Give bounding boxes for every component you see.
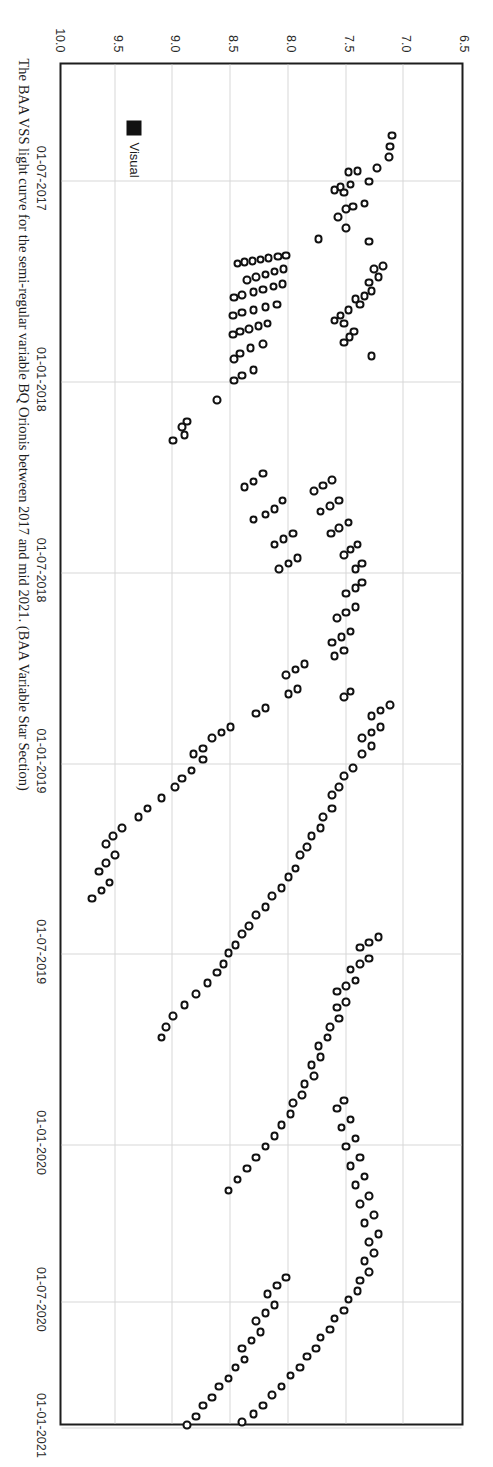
data-point	[334, 1014, 343, 1023]
data-point	[364, 237, 373, 246]
data-point	[339, 1096, 348, 1105]
data-point	[330, 1314, 339, 1323]
y-tick-label: 8.5	[225, 16, 239, 52]
data-point	[293, 553, 302, 562]
data-point	[367, 711, 376, 720]
data-point	[337, 1123, 346, 1132]
data-point	[251, 709, 260, 718]
data-point	[341, 1142, 350, 1151]
data-point	[273, 252, 282, 261]
data-point	[272, 1281, 281, 1290]
data-point	[353, 540, 362, 549]
data-point	[101, 839, 110, 848]
data-point	[325, 1325, 334, 1334]
data-point	[279, 264, 288, 273]
gridline-horizontal	[402, 64, 403, 1423]
data-point	[274, 564, 283, 573]
data-point	[353, 166, 362, 175]
data-point	[309, 1071, 318, 1080]
data-point	[346, 1161, 355, 1170]
data-point	[341, 997, 350, 1006]
data-point	[180, 430, 189, 439]
y-tick-label: 8.0	[283, 16, 297, 52]
data-point	[351, 583, 360, 592]
data-point	[341, 204, 350, 213]
data-point	[327, 790, 336, 799]
data-point	[307, 1060, 316, 1069]
data-point	[284, 689, 293, 698]
data-point	[332, 613, 341, 622]
data-point	[327, 638, 336, 647]
data-point	[369, 1248, 378, 1257]
data-point	[369, 1210, 378, 1219]
data-point	[341, 608, 350, 617]
data-point	[288, 529, 297, 538]
data-point	[351, 1134, 360, 1143]
data-point	[237, 929, 246, 938]
x-tick-label: 01-01-2018	[33, 346, 47, 411]
data-point	[367, 728, 376, 737]
data-point	[364, 1191, 373, 1200]
data-point	[286, 1109, 295, 1118]
data-point	[97, 886, 106, 895]
gridline-horizontal	[229, 64, 230, 1423]
gridline-vertical	[61, 572, 461, 573]
data-point	[326, 529, 335, 538]
data-point	[270, 1131, 279, 1140]
data-point	[333, 212, 342, 221]
data-point	[224, 1186, 233, 1195]
x-tick-label: 01-07-2017	[33, 145, 47, 210]
data-point	[249, 515, 258, 524]
data-point	[309, 486, 318, 495]
data-point	[302, 842, 311, 851]
data-point	[297, 1090, 306, 1099]
data-point	[249, 477, 258, 486]
data-point	[334, 523, 343, 532]
data-point	[256, 255, 265, 264]
data-point	[364, 938, 373, 947]
data-point	[272, 300, 281, 309]
data-point	[270, 540, 279, 549]
data-point	[110, 850, 119, 859]
data-point	[171, 782, 180, 791]
data-point	[240, 1355, 249, 1364]
data-point	[316, 823, 325, 832]
y-tick-label: 7.5	[341, 16, 355, 52]
data-point	[346, 1115, 355, 1124]
data-point	[337, 632, 346, 641]
legend-label-visual: Visual	[126, 142, 141, 177]
data-point	[219, 959, 228, 968]
data-point	[339, 188, 348, 197]
data-point	[346, 965, 355, 974]
data-point	[168, 436, 177, 445]
data-point	[261, 703, 270, 712]
data-point	[191, 1412, 200, 1421]
data-point	[134, 812, 143, 821]
data-point	[101, 858, 110, 867]
data-point	[339, 338, 348, 347]
data-point	[233, 259, 242, 268]
data-point	[341, 981, 350, 990]
data-point	[339, 692, 348, 701]
data-point	[224, 948, 233, 957]
data-point	[325, 1022, 334, 1031]
data-point	[263, 319, 272, 328]
data-point	[330, 185, 339, 194]
data-point	[339, 550, 348, 559]
y-tick-label: 6.5	[456, 16, 470, 52]
data-point	[327, 475, 336, 484]
data-point	[182, 1420, 191, 1429]
x-tick-label: 01-07-2018	[33, 537, 47, 602]
data-point	[203, 978, 212, 987]
data-point	[87, 894, 96, 903]
data-point	[316, 1333, 325, 1342]
data-point	[277, 1120, 286, 1129]
data-point	[244, 324, 253, 333]
data-point	[364, 1237, 373, 1246]
data-point	[316, 507, 325, 516]
data-point	[360, 1218, 369, 1227]
data-point	[351, 564, 360, 573]
data-point	[229, 293, 238, 302]
data-point	[254, 321, 263, 330]
data-point	[344, 518, 353, 527]
